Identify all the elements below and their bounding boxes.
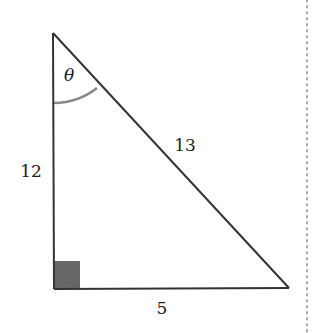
angle-theta-label: θ xyxy=(64,67,74,84)
angle-arc xyxy=(54,88,97,103)
side-vertical xyxy=(53,33,54,289)
side-hypotenuse xyxy=(53,33,289,288)
right-angle-marker xyxy=(54,261,80,289)
vertical-side-label: 12 xyxy=(20,163,42,180)
hypotenuse-label: 13 xyxy=(174,137,196,154)
base-label: 5 xyxy=(157,300,168,317)
side-base xyxy=(54,288,289,289)
triangle-diagram xyxy=(0,0,321,333)
